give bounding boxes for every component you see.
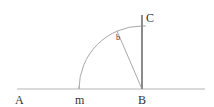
radius-B-to-b: [117, 31, 142, 89]
label-b: b: [116, 33, 120, 42]
label-B: B: [138, 93, 146, 107]
diagram-canvas: A m B C b: [0, 0, 214, 107]
arc-m-to-top: [79, 26, 146, 89]
label-C: C: [146, 11, 154, 25]
label-A: A: [15, 93, 24, 107]
diagram-svg: A m B C b: [0, 0, 214, 107]
label-m: m: [75, 93, 85, 107]
